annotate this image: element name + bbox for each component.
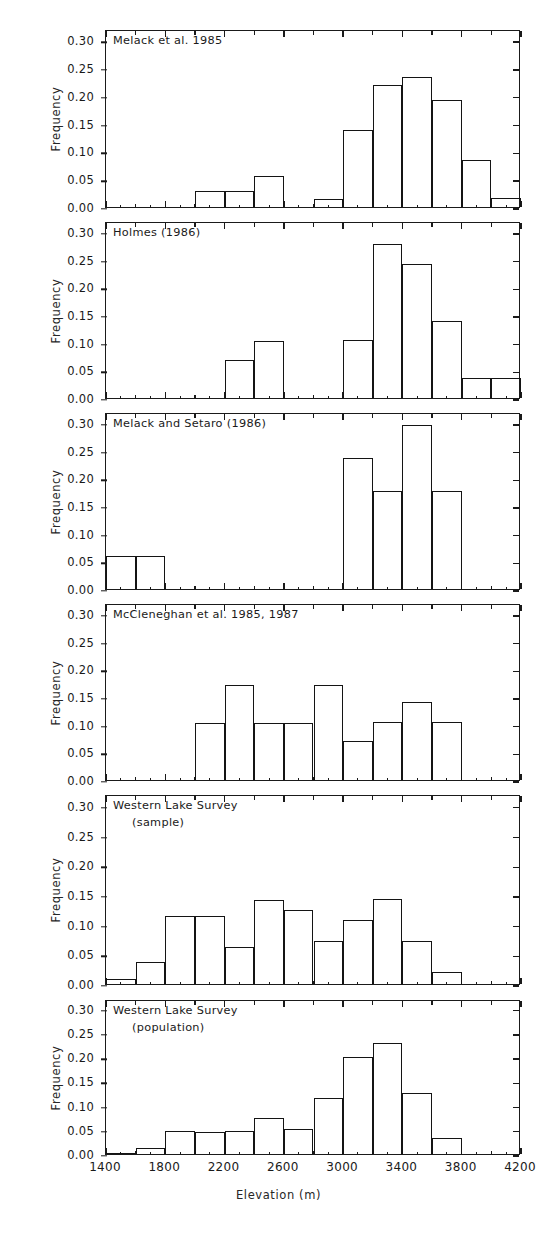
y-tick-mark-right — [513, 956, 519, 957]
x-tick-major — [224, 583, 225, 589]
x-tick-major — [224, 605, 225, 611]
x-tick-major — [283, 796, 284, 802]
y-tick-mark — [101, 1155, 107, 1156]
y-tick-label: 0.05 — [67, 364, 94, 378]
y-tick-mark-right — [513, 97, 519, 98]
x-tick-label: 2200 — [208, 1160, 240, 1174]
y-tick-mark — [101, 781, 107, 782]
x-tick-fine — [239, 587, 240, 589]
histogram-bar — [136, 556, 166, 589]
x-tick-minor — [431, 223, 432, 227]
x-tick-minor — [194, 796, 195, 800]
x-tick-minor — [194, 31, 195, 35]
y-tick-mark — [101, 480, 107, 481]
x-tick-major — [283, 605, 284, 611]
x-tick-minor — [372, 223, 373, 227]
x-tick-fine — [506, 982, 507, 984]
y-tick-mark-right — [513, 69, 519, 70]
y-tick-label: 0.15 — [67, 1075, 94, 1089]
x-tick-fine — [180, 396, 181, 398]
x-tick-major — [105, 223, 106, 229]
x-tick-major — [461, 796, 462, 802]
histogram-bar — [402, 702, 432, 780]
y-tick-mark — [101, 698, 107, 699]
x-tick-label: 1400 — [89, 1160, 121, 1174]
histogram-bar — [314, 685, 344, 780]
panel-melack-setaro-1986: Frequency0.000.050.100.150.200.250.30Mel… — [0, 413, 557, 590]
y-tick-label: 0.25 — [67, 62, 94, 76]
y-tick-label: 0.20 — [67, 472, 94, 486]
y-tick-mark-right — [513, 535, 519, 536]
y-tick-label: 0.25 — [67, 1027, 94, 1041]
panel-subtitle: (sample) — [132, 816, 184, 829]
x-tick-major — [520, 223, 521, 229]
histogram-bar — [165, 1131, 195, 1154]
x-tick-fine — [476, 982, 477, 984]
x-tick-minor — [491, 414, 492, 418]
y-tick-mark — [101, 1010, 107, 1011]
y-tick-mark — [101, 726, 107, 727]
x-tick-label: 1800 — [148, 1160, 180, 1174]
histogram-bar — [462, 378, 492, 398]
y-tick-mark-right — [513, 507, 519, 508]
x-tick-fine — [476, 1152, 477, 1154]
x-tick-minor — [254, 414, 255, 418]
x-tick-minor — [135, 223, 136, 227]
y-tick-mark — [101, 590, 107, 591]
x-tick-major — [224, 796, 225, 802]
y-tick-mark-right — [513, 563, 519, 564]
plot-inner: McCleneghan et al. 1985, 1987 — [106, 605, 519, 780]
x-tick-minor — [313, 31, 314, 35]
histogram-bar — [432, 722, 462, 780]
y-tick-mark — [101, 289, 107, 290]
y-tick-mark — [101, 1034, 107, 1035]
y-tick-mark — [101, 837, 107, 838]
plot-inner: Melack and Setaro (1986) — [106, 414, 519, 589]
x-tick-label: 4200 — [504, 1160, 536, 1174]
histogram-bar — [402, 264, 432, 398]
plot-inner: Western Lake Survey(sample) — [106, 796, 519, 984]
y-tick-mark-right — [513, 726, 519, 727]
x-tick-minor — [313, 414, 314, 418]
histogram-bar — [343, 340, 373, 398]
y-tick-mark — [101, 69, 107, 70]
x-tick-minor — [431, 605, 432, 609]
y-tick-mark-right — [513, 1155, 519, 1156]
y-tick-label: 0.05 — [67, 173, 94, 187]
y-tick-mark — [101, 1083, 107, 1084]
y-tick-mark — [101, 535, 107, 536]
x-tick-minor — [135, 414, 136, 418]
x-tick-minor — [313, 223, 314, 227]
x-tick-fine — [298, 396, 299, 398]
y-tick-mark-right — [513, 896, 519, 897]
x-tick-major — [283, 414, 284, 420]
x-tick-major — [402, 605, 403, 611]
y-tick-label: 0.15 — [67, 309, 94, 323]
y-tick-label: 0.15 — [67, 500, 94, 514]
y-tick-label: 0.30 — [67, 417, 94, 431]
x-tick-fine — [209, 587, 210, 589]
y-tick-mark — [101, 399, 107, 400]
histogram-figure: Frequency0.000.050.100.150.200.250.30Mel… — [0, 0, 557, 1238]
x-tick-minor — [313, 586, 314, 590]
histogram-bar — [136, 1148, 166, 1154]
x-tick-major — [342, 796, 343, 802]
x-tick-minor — [194, 414, 195, 418]
histogram-bar — [165, 916, 195, 984]
x-tick-major — [105, 414, 106, 420]
x-tick-minor — [194, 605, 195, 609]
y-tick-mark — [101, 867, 107, 868]
y-tick-mark-right — [513, 985, 519, 986]
x-tick-fine — [328, 587, 329, 589]
y-tick-mark — [101, 153, 107, 154]
y-tick-mark — [101, 424, 107, 425]
panel-title: McCleneghan et al. 1985, 1987 — [113, 608, 299, 621]
y-tick-mark — [101, 896, 107, 897]
histogram-bar — [314, 1098, 344, 1154]
y-tick-mark-right — [513, 180, 519, 181]
histogram-bar — [343, 920, 373, 984]
x-tick-fine — [209, 396, 210, 398]
x-tick-major — [105, 605, 106, 611]
x-tick-major — [165, 414, 166, 420]
x-tick-minor — [135, 204, 136, 208]
